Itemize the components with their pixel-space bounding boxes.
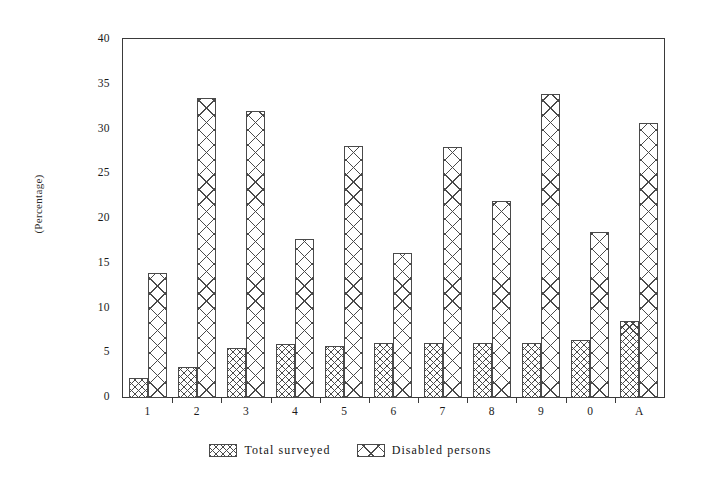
x-axis-tick-label: 2 xyxy=(185,405,209,417)
y-axis-tick-label: 30 xyxy=(76,123,110,134)
y-axis-tick-label: 25 xyxy=(76,167,110,178)
bar-total-surveyed xyxy=(178,367,197,398)
bar-total-surveyed xyxy=(522,343,541,398)
bar-total-surveyed xyxy=(227,348,246,398)
bar-group xyxy=(566,39,615,398)
x-axis-tick xyxy=(566,397,567,403)
bar-disabled-persons xyxy=(246,111,265,398)
bar-total-surveyed xyxy=(276,344,295,398)
x-axis-tick-label: 8 xyxy=(480,405,504,417)
x-axis-tick-label: 6 xyxy=(382,405,406,417)
x-axis-tick-label: 0 xyxy=(578,405,602,417)
bar-group xyxy=(320,39,369,398)
x-axis-tick xyxy=(172,397,173,403)
legend-swatch-disabled-persons xyxy=(357,444,385,457)
x-axis-tick-label: A xyxy=(627,405,651,417)
bar-group xyxy=(615,39,664,398)
bar-total-surveyed xyxy=(473,343,492,398)
bar-group xyxy=(369,39,418,398)
bar-total-surveyed xyxy=(424,343,443,398)
x-axis-tick-label: 3 xyxy=(234,405,258,417)
x-axis-tick xyxy=(418,397,419,403)
bar-disabled-persons xyxy=(443,147,462,398)
bar-chart-figure: (Percentage) 0510152025303540 1234567890… xyxy=(0,0,701,481)
bar-group xyxy=(271,39,320,398)
bar-disabled-persons xyxy=(295,239,314,398)
bar-group xyxy=(418,39,467,398)
y-axis-tick-label: 40 xyxy=(76,33,110,44)
y-axis-tick-label: 10 xyxy=(76,302,110,313)
legend-label-total-surveyed: Total surveyed xyxy=(244,443,330,458)
x-axis-tick xyxy=(467,397,468,403)
bar-disabled-persons xyxy=(197,98,216,398)
bar-disabled-persons xyxy=(148,273,167,398)
bar-disabled-persons xyxy=(344,146,363,398)
x-axis-tick xyxy=(271,397,272,403)
x-axis-tick-label: 7 xyxy=(431,405,455,417)
y-axis-tick-label: 5 xyxy=(76,346,110,357)
x-axis-tick-label: 1 xyxy=(136,405,160,417)
bar-group xyxy=(221,39,270,398)
legend-item-disabled-persons: Disabled persons xyxy=(357,443,492,458)
x-axis-tick xyxy=(516,397,517,403)
x-axis-tick-label: 5 xyxy=(332,405,356,417)
bar-group xyxy=(516,39,565,398)
bar-disabled-persons xyxy=(590,232,609,398)
bar-total-surveyed xyxy=(374,343,393,398)
y-axis-tick-label: 15 xyxy=(76,257,110,268)
chart-legend: Total surveyed Disabled persons xyxy=(0,443,701,458)
bar-total-surveyed xyxy=(325,346,344,398)
bars-area xyxy=(123,39,664,398)
legend-swatch-total-surveyed xyxy=(209,444,237,457)
bar-group xyxy=(172,39,221,398)
x-axis-tick xyxy=(221,397,222,403)
x-axis-tick xyxy=(320,397,321,403)
x-axis-tick-label: 4 xyxy=(283,405,307,417)
bar-total-surveyed xyxy=(571,340,590,398)
legend-label-disabled-persons: Disabled persons xyxy=(392,443,492,458)
x-axis-tick-label: 9 xyxy=(529,405,553,417)
y-axis-tick-label: 20 xyxy=(76,212,110,223)
legend-item-total-surveyed: Total surveyed xyxy=(209,443,330,458)
bar-group xyxy=(123,39,172,398)
bar-disabled-persons xyxy=(393,253,412,398)
y-axis-tick-label: 0 xyxy=(76,391,110,402)
bar-total-surveyed xyxy=(129,378,148,398)
x-axis-tick xyxy=(615,397,616,403)
y-axis-tick-label: 35 xyxy=(76,78,110,89)
bar-group xyxy=(467,39,516,398)
x-axis-tick xyxy=(369,397,370,403)
bar-disabled-persons xyxy=(541,94,560,398)
bar-total-surveyed xyxy=(620,321,639,398)
bar-disabled-persons xyxy=(492,201,511,398)
bar-disabled-persons xyxy=(639,123,658,398)
y-axis-label: (Percentage) xyxy=(32,144,44,264)
